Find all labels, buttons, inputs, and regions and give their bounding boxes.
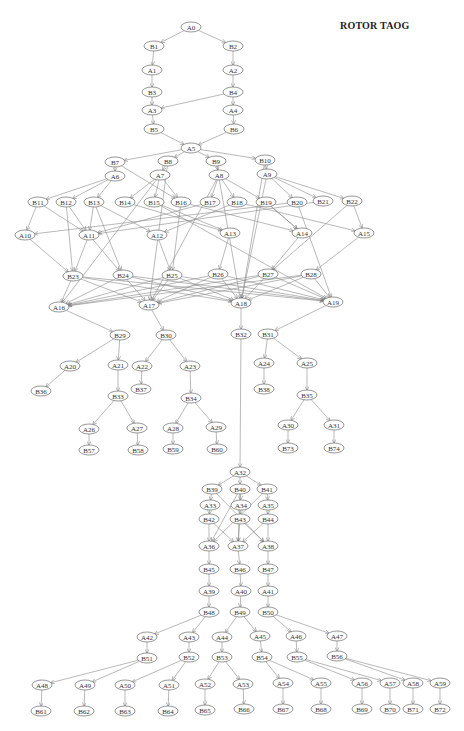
edge-A37-B46 xyxy=(238,551,239,564)
node-label: B72 xyxy=(434,706,446,714)
node-A57: A57 xyxy=(380,678,400,688)
edge-B54-A54 xyxy=(266,662,280,679)
node-B31: B31 xyxy=(258,329,278,339)
node-label: A59 xyxy=(434,680,447,688)
edge-B12-A11 xyxy=(69,207,85,231)
node-label: A54 xyxy=(277,680,290,688)
edge-A15-B28 xyxy=(316,237,358,270)
edge-B11-A11 xyxy=(44,206,83,231)
node-label: B40 xyxy=(234,486,246,494)
node-label: A27 xyxy=(131,425,144,433)
node-A47: A47 xyxy=(327,631,347,641)
node-label: A21 xyxy=(112,362,125,370)
edge-A16-B29 xyxy=(66,310,112,331)
node-B18: B18 xyxy=(227,197,247,207)
node-B47: B47 xyxy=(258,564,278,574)
node-B66: B66 xyxy=(234,704,254,714)
node-label: A41 xyxy=(262,588,275,596)
node-label: B15 xyxy=(148,199,160,207)
node-label: A34 xyxy=(235,502,248,510)
node-label: A53 xyxy=(237,681,250,689)
node-label: B38 xyxy=(258,386,270,394)
edge-A14-B27 xyxy=(272,238,298,270)
node-B26: B26 xyxy=(208,269,228,279)
node-A25: A25 xyxy=(297,358,317,368)
node-B51: B51 xyxy=(137,653,157,663)
edge-B21-A11 xyxy=(99,202,314,233)
node-label: B57 xyxy=(83,447,95,455)
node-label: B58 xyxy=(132,447,144,455)
node-label: B61 xyxy=(35,708,47,716)
node-label: B35 xyxy=(301,392,313,400)
node-B12: B12 xyxy=(56,197,76,207)
edge-A23-B34 xyxy=(190,371,191,393)
node-B29: B29 xyxy=(110,330,130,340)
node-label: B8 xyxy=(164,158,173,166)
node-label: A58 xyxy=(407,680,420,688)
node-A1: A1 xyxy=(142,65,162,75)
edge-B56-A59 xyxy=(346,658,431,680)
node-A16: A16 xyxy=(49,302,69,312)
node-label: B48 xyxy=(203,609,215,617)
edge-A6-B12 xyxy=(73,180,108,199)
node-A12: A12 xyxy=(147,230,167,240)
node-B27: B27 xyxy=(258,269,278,279)
node-B4: B4 xyxy=(223,87,243,97)
node-label: B11 xyxy=(32,199,44,207)
node-B13: B13 xyxy=(84,197,104,207)
node-label: B52 xyxy=(183,654,195,662)
node-label: B22 xyxy=(346,198,358,206)
edge-B34-A29 xyxy=(195,403,212,423)
node-label: B65 xyxy=(199,707,211,715)
edge-B31-A24 xyxy=(265,339,268,358)
node-label: B60 xyxy=(211,446,223,454)
node-label: B26 xyxy=(212,271,224,279)
edge-B13-B24 xyxy=(96,207,121,270)
node-label: B33 xyxy=(112,393,124,401)
node-label: B12 xyxy=(60,199,72,207)
node-A38: A38 xyxy=(258,541,278,551)
edge-A17-B30 xyxy=(152,310,164,330)
node-label: B59 xyxy=(167,446,179,454)
edge-B48-A42 xyxy=(155,615,201,634)
node-label: B14 xyxy=(119,199,131,207)
edge-B17-A11 xyxy=(98,204,201,232)
node-label: B18 xyxy=(231,199,243,207)
node-label: B74 xyxy=(328,445,340,453)
edge-B28-A16 xyxy=(69,275,302,305)
node-label: B9 xyxy=(212,158,221,166)
node-label: A17 xyxy=(143,302,156,310)
edge-B34-A28 xyxy=(176,403,188,423)
node-A41: A41 xyxy=(258,586,278,596)
node-label: A55 xyxy=(315,680,328,688)
node-A54: A54 xyxy=(273,678,293,688)
node-label: B39 xyxy=(206,486,218,494)
node-B11: B11 xyxy=(28,197,48,207)
node-B70: B70 xyxy=(380,704,400,714)
node-B71: B71 xyxy=(403,704,423,714)
node-B55: B55 xyxy=(287,652,307,662)
node-label: B7 xyxy=(111,159,120,167)
node-label: A16 xyxy=(53,304,66,312)
node-A22: A22 xyxy=(132,361,152,371)
node-B38: B38 xyxy=(254,384,274,394)
node-A15: A15 xyxy=(354,228,374,238)
node-label: A40 xyxy=(235,588,248,596)
node-A4: A4 xyxy=(223,105,243,115)
node-B72: B72 xyxy=(430,704,450,714)
node-label: B30 xyxy=(160,332,172,340)
node-label: B25 xyxy=(166,272,178,280)
node-label: B66 xyxy=(238,706,250,714)
node-label: A45 xyxy=(254,633,267,641)
edge-A46-B55 xyxy=(296,641,297,652)
node-A29: A29 xyxy=(206,422,226,432)
edge-A11-B23 xyxy=(75,240,87,271)
node-B65: B65 xyxy=(195,705,215,715)
node-label: A8 xyxy=(215,172,224,180)
node-B63: B63 xyxy=(115,706,135,716)
node-A55: A55 xyxy=(311,678,331,688)
node-label: B42 xyxy=(203,516,215,524)
node-label: B41 xyxy=(261,486,273,494)
node-label: B34 xyxy=(185,395,197,403)
edge-B52-A51 xyxy=(172,662,185,681)
